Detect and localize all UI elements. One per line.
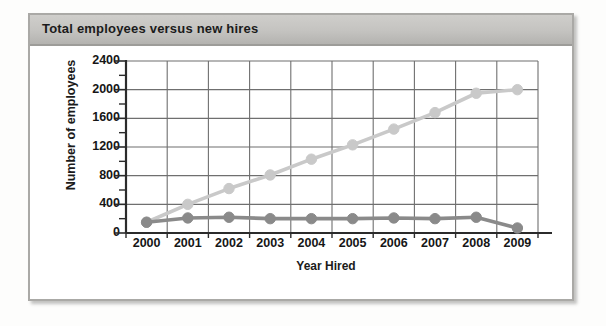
data-point-marker [224,212,234,222]
data-point-marker [512,84,522,94]
data-point-marker [347,213,357,223]
x-tick-label: 2006 [372,236,416,250]
x-axis-title: Year Hired [126,259,526,273]
x-tick-label: 2000 [125,236,169,250]
panel-body: Number of employees 04008001200160020002… [30,46,572,299]
data-point-marker [306,154,316,164]
data-point-marker [265,170,275,180]
x-tick-label: 2007 [413,236,457,250]
data-point-marker [265,213,275,223]
data-point-marker [306,213,316,223]
data-point-marker [430,107,440,117]
x-tick-label: 2008 [454,236,498,250]
data-point-marker [471,212,481,222]
data-point-marker [183,213,193,223]
x-tick-label: 2005 [331,236,375,250]
plot-area [38,52,560,292]
panel-header: Total employees versus new hires [30,15,572,46]
x-axis-tick-labels: 2000200120022003200420052006200720082009 [126,236,526,256]
panel-title: Total employees versus new hires [42,21,258,36]
data-point-marker [389,124,399,134]
data-point-marker [347,140,357,150]
axis-ticks [115,61,538,238]
data-point-marker [430,213,440,223]
data-point-marker [224,183,234,193]
x-tick-label: 2001 [166,236,210,250]
chart-panel: Total employees versus new hires Number … [28,13,574,301]
x-tick-label: 2002 [207,236,251,250]
x-tick-label: 2003 [248,236,292,250]
scanned-page: Total employees versus new hires Number … [0,0,606,326]
data-point-marker [471,88,481,98]
data-point-marker [141,217,151,227]
line-chart: Number of employees 04008001200160020002… [38,52,560,292]
data-point-marker [389,213,399,223]
data-point-marker [183,199,193,209]
x-tick-label: 2009 [495,236,539,250]
data-point-marker [512,223,522,233]
x-tick-label: 2004 [289,236,333,250]
